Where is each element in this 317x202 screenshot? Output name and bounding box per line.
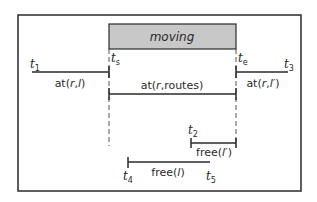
timeline-diagram: moving ts te t1 at(r,l) at(r,routes) t3 … [0, 0, 317, 202]
free-l-label: free(l) [151, 166, 184, 179]
at-r-lprime-label: at(r,l′) [246, 77, 279, 90]
t3-label: t3 [284, 57, 294, 73]
at-r-l-label: at(r,l) [55, 77, 86, 90]
t4-label: t4 [123, 169, 133, 185]
ts-label: ts [111, 51, 120, 67]
interval-free-lprime: t2 free(l′) [188, 123, 236, 159]
te-label: te [238, 51, 248, 67]
interval-at-r-l: t1 at(r,l) [30, 57, 109, 90]
free-lprime-label: free(l′) [196, 146, 232, 159]
t5-label: t5 [206, 169, 216, 185]
at-r-routes-label: at(r,routes) [141, 79, 203, 92]
moving-action-box: moving [109, 24, 236, 49]
t2-label: t2 [188, 123, 198, 139]
t1-label: t1 [30, 57, 40, 73]
interval-at-r-routes: at(r,routes) [109, 79, 236, 100]
interval-free-l: t4 t5 free(l) [123, 157, 216, 185]
moving-label: moving [150, 30, 195, 44]
